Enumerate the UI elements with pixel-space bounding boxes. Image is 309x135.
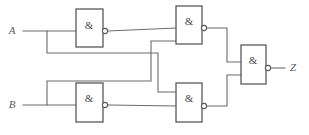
logic-gate-g5[interactable]: & bbox=[241, 45, 271, 84]
gate-symbol-g2: & bbox=[185, 15, 194, 27]
logic-gate-g1[interactable]: & bbox=[76, 9, 108, 47]
logic-gate-g4[interactable]: & bbox=[176, 83, 207, 122]
inversion-bubble-icon-g1 bbox=[102, 28, 107, 33]
wire-net-b-branch bbox=[47, 41, 176, 105]
gate-symbol-g1: & bbox=[85, 19, 94, 31]
inversion-bubble-icon-g5 bbox=[265, 65, 270, 70]
output-label-z: Z bbox=[290, 61, 297, 73]
circuit-canvas: &&&&& ABZ bbox=[0, 0, 309, 135]
gate-symbol-g3: & bbox=[85, 92, 94, 104]
inversion-bubble-icon-g3 bbox=[102, 102, 107, 107]
logic-gate-g3[interactable]: & bbox=[76, 83, 108, 122]
wire-net-g4-to-g5 bbox=[207, 75, 241, 106]
input-label-b: B bbox=[9, 98, 16, 110]
wire-net-g2-to-g5 bbox=[207, 28, 241, 62]
gates-layer: &&&&& bbox=[76, 6, 271, 122]
wire-net-a-branch bbox=[47, 31, 176, 92]
gate-symbol-g5: & bbox=[249, 54, 258, 66]
gate-symbol-g4: & bbox=[185, 92, 194, 104]
inversion-bubble-icon-g4 bbox=[201, 103, 206, 108]
wire-net-g1-to-g2 bbox=[108, 28, 176, 31]
logic-circuit-diagram: &&&&& ABZ bbox=[0, 0, 309, 135]
logic-gate-g2[interactable]: & bbox=[176, 6, 207, 44]
input-label-a: A bbox=[8, 24, 16, 36]
inversion-bubble-icon-g2 bbox=[201, 25, 206, 30]
wire-net-g3-to-g4 bbox=[108, 105, 176, 106]
